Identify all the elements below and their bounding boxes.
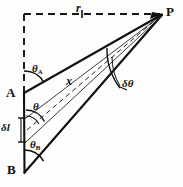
ray-b-to-p	[25, 15, 163, 173]
theta-b-subscript: B	[36, 144, 41, 151]
label-point-a: A	[6, 86, 15, 99]
ray-a-to-p	[24, 15, 162, 94]
label-delta-theta: δθ	[122, 78, 133, 89]
label-point-p: P	[166, 5, 174, 18]
figure-canvas	[0, 0, 183, 187]
label-delta-l: δl	[1, 122, 10, 133]
segment-ab-line	[24, 92, 25, 173]
label-distance-x: x	[66, 75, 72, 87]
theta-a-subscript: A	[38, 68, 43, 75]
angle-arc-theta-inner	[26, 116, 39, 124]
dashed-mid-ray	[27, 16, 160, 130]
label-point-b: B	[7, 163, 16, 176]
label-angle-theta: θ	[33, 101, 39, 112]
label-angle-theta-b: θB	[30, 139, 40, 151]
thin-ray-upper	[26, 16, 161, 119]
label-distance-r: r	[76, 2, 81, 14]
label-angle-theta-a: θA	[32, 63, 43, 75]
geometry-figure: P r A B x θA θ θB δθ δl	[0, 0, 183, 187]
